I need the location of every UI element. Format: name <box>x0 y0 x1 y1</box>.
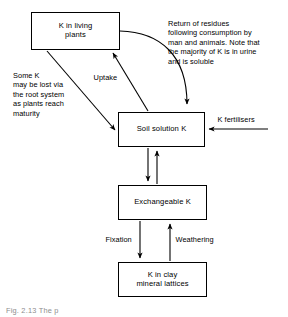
node-soil-solution-k: Soil solution K <box>118 112 205 147</box>
node-label-exchangeable-k: Exchangeable K <box>131 198 194 207</box>
node-label-k-in-clay-mineral-lattices: K in clay mineral lattices <box>133 271 191 289</box>
edge-label-k-fertilisers: K fertilisers <box>216 115 256 124</box>
node-label-k-in-living-plants: K in living plants <box>56 22 96 40</box>
potassium-cycle-diagram: K in living plants Soil solution K Excha… <box>0 0 288 317</box>
edge-label-weathering: Weathering <box>174 235 215 244</box>
node-exchangeable-k: Exchangeable K <box>118 185 207 220</box>
node-label-soil-solution-k: Soil solution K <box>134 125 190 134</box>
edge-soil-to-plants-uptake <box>113 53 148 111</box>
node-k-in-clay-mineral-lattices: K in clay mineral lattices <box>118 262 207 297</box>
edge-label-fixation: Fixation <box>104 235 133 244</box>
edge-label-uptake: Uptake <box>92 73 119 82</box>
annotation-some-k-may-be-lost: Some K may be lost via the root system a… <box>13 71 91 118</box>
node-k-in-living-plants: K in living plants <box>31 12 120 50</box>
figure-caption: Fig. 2.13 The p <box>6 306 59 317</box>
annotation-return-of-residues: Return of residues following consumption… <box>168 19 286 66</box>
